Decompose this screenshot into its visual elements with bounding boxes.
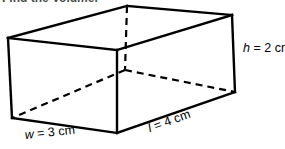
height-label: h = 2 cm [243, 41, 285, 55]
width-value: 3 cm [47, 123, 75, 140]
hidden-vertical-edge [125, 6, 127, 70]
worksheet-figure-page: Find the Volume. h = 2 cm w = 3 [0, 0, 285, 149]
top-edge-back-right [127, 6, 232, 15]
height-variable: h [243, 41, 250, 55]
top-edge-front-left [8, 38, 117, 50]
hidden-edge-to-bottom-left [12, 70, 125, 118]
visible-edges-group [8, 6, 235, 133]
height-value: 2 cm [264, 41, 285, 55]
top-edge-right-front [117, 15, 232, 50]
vertical-edge-right [232, 15, 235, 92]
vertical-edge-left [8, 38, 12, 118]
hidden-edges-group [12, 6, 235, 118]
height-equals: = [250, 41, 264, 55]
hidden-edge-to-bottom-right [125, 70, 235, 92]
top-edge-left-back [8, 6, 127, 38]
